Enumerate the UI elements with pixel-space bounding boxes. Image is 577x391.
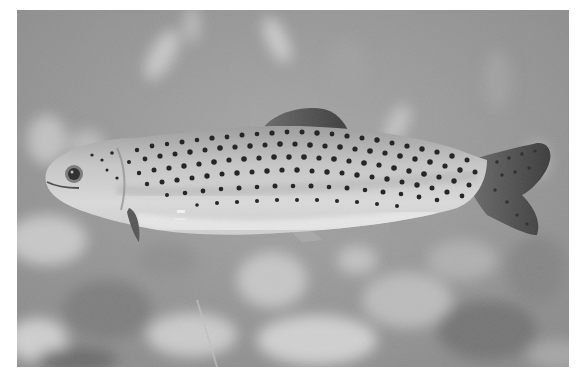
- trout-photo: [17, 10, 569, 367]
- trout-illustration: [17, 10, 569, 367]
- film-grain: [17, 10, 569, 367]
